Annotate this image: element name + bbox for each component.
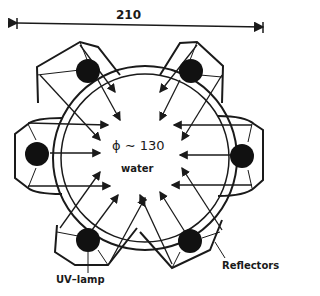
uv-lamp-left (25, 142, 49, 166)
dimension-label: 210 (116, 8, 141, 22)
uv-lamp-bottom-right (178, 229, 202, 253)
water-label: water (121, 163, 153, 174)
vessel-outer-wall (53, 66, 237, 250)
uv-lamp-top-right (179, 59, 203, 83)
uv-lamp-top-left (76, 59, 100, 83)
reflector-leader-line (215, 242, 225, 258)
vessel-inner-wall (61, 74, 229, 242)
diameter-label: ϕ ∼ 130 (112, 138, 165, 153)
uv-lamp-right (230, 144, 254, 168)
uv-lamp-bottom-left (76, 228, 100, 252)
reflectors-label: Reflectors (222, 260, 279, 271)
uv-lamp-label: UV–lamp (56, 274, 105, 285)
